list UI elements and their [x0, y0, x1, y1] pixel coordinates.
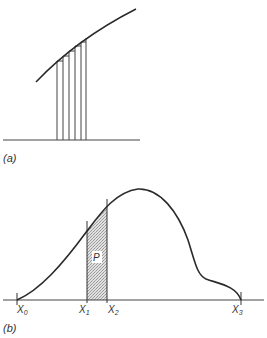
region-label-p: P — [93, 252, 100, 263]
label-x2: X2 — [107, 304, 119, 316]
panel-b-label: (b) — [3, 322, 17, 334]
figure: (a) P X0 X1 X2 X3 — [0, 0, 267, 338]
density-curve — [17, 189, 241, 300]
panel-a-strips — [57, 38, 86, 140]
panel-b: P X0 X1 X2 X3 (b) — [3, 189, 264, 334]
label-x1: X1 — [78, 304, 90, 316]
panel-a: (a) — [3, 9, 140, 164]
panel-a-label: (a) — [3, 152, 17, 164]
label-x3: X3 — [231, 304, 243, 316]
label-x0: X0 — [16, 304, 28, 316]
x-axis-labels: X0 X1 X2 X3 — [16, 304, 243, 316]
